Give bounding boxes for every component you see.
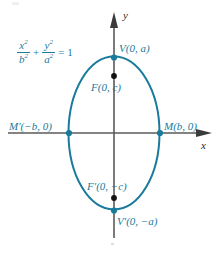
focus-bottom-dot bbox=[111, 195, 117, 201]
covertex-left-dot bbox=[66, 130, 72, 136]
y-axis-label: y bbox=[123, 10, 128, 21]
equation-equals-one: = 1 bbox=[58, 47, 72, 58]
covertex-right-dot bbox=[157, 130, 163, 136]
label-focus-bottom: F′(0, −c) bbox=[87, 181, 127, 192]
label-vertex-bottom: V′(0, −a) bbox=[117, 216, 157, 227]
label-focus-top: F(0, c) bbox=[91, 82, 121, 93]
equation-b-denominator-exponent: 2 bbox=[25, 52, 29, 60]
label-covertex-right: M(b, 0) bbox=[164, 121, 197, 132]
x-axis-label: x bbox=[201, 140, 206, 151]
vertex-top-dot bbox=[111, 54, 117, 60]
equation-plus-sign: + bbox=[33, 47, 39, 58]
equation-y-numerator-exponent: 2 bbox=[49, 38, 53, 46]
label-vertex-top: V(0, a) bbox=[119, 43, 150, 54]
equation-a-denominator-exponent: 2 bbox=[50, 52, 54, 60]
focus-top-dot bbox=[111, 73, 117, 79]
label-covertex-left: M′(−b, 0) bbox=[9, 121, 52, 132]
vertex-bottom-dot bbox=[111, 207, 117, 213]
ellipse-equation: x2 b2 + y2 a2 = 1 bbox=[16, 40, 75, 65]
equation-fraction-y: y2 a2 bbox=[42, 40, 55, 65]
y-axis-arrowhead bbox=[110, 12, 118, 28]
equation-x-numerator-exponent: 2 bbox=[24, 38, 28, 46]
equation-fraction-x: x2 b2 bbox=[17, 40, 30, 65]
x-axis-arrowhead bbox=[196, 129, 212, 137]
